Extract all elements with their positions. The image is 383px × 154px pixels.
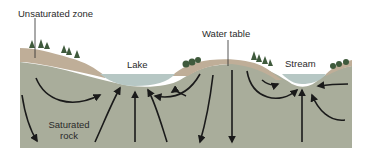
unsaturated-zone-label: Unsaturated zone: [18, 9, 93, 19]
saturated-rock-label: Saturated rock: [44, 120, 94, 140]
saturated-rock-label-line2: rock: [44, 131, 94, 141]
stream-label: Stream: [285, 59, 316, 69]
lake-label: Lake: [127, 60, 148, 70]
saturated-rock-label-line1: Saturated: [44, 120, 94, 130]
water-table-label: Water table: [202, 29, 250, 39]
